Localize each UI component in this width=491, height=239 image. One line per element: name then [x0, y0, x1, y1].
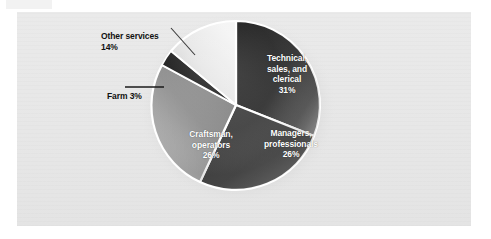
slice-callout-farm: Farm 3% — [107, 91, 142, 102]
slice-label-technical-value: 31% — [249, 85, 325, 96]
slice-label-technical-sales-clerical: Technical, sales, and clerical 31% — [249, 53, 325, 95]
slice-callout-other-services-text: Other services — [101, 31, 159, 42]
chart-panel: Other services 14% Farm 3% Technical, sa… — [17, 12, 471, 226]
scan-artifact — [6, 0, 52, 9]
chart-screenshot: Other services 14% Farm 3% Technical, sa… — [0, 0, 491, 239]
slice-callout-other-services-value: 14% — [101, 42, 159, 53]
slice-callout-farm-text: Farm 3% — [107, 91, 142, 102]
slice-callout-other-services: Other services 14% — [101, 31, 159, 52]
slice-label-managers-value: 26% — [250, 149, 332, 160]
slice-label-managers-professionals: Managers, professionals 26% — [250, 128, 332, 160]
slice-label-craftsman-line2: operators — [174, 140, 248, 151]
slice-label-technical-line1: Technical, — [249, 53, 325, 64]
slice-label-technical-line3: clerical — [249, 74, 325, 85]
slice-label-craftsman-operators: Craftsman, operators 26% — [174, 129, 248, 161]
pie-chart-svg — [17, 12, 471, 226]
slice-label-technical-line2: sales, and — [249, 64, 325, 75]
slice-label-managers-line2: professionals — [250, 139, 332, 150]
slice-label-managers-line1: Managers, — [250, 128, 332, 139]
pie-chart — [17, 12, 471, 226]
slice-label-craftsman-line1: Craftsman, — [174, 129, 248, 140]
slice-label-craftsman-value: 26% — [174, 150, 248, 161]
